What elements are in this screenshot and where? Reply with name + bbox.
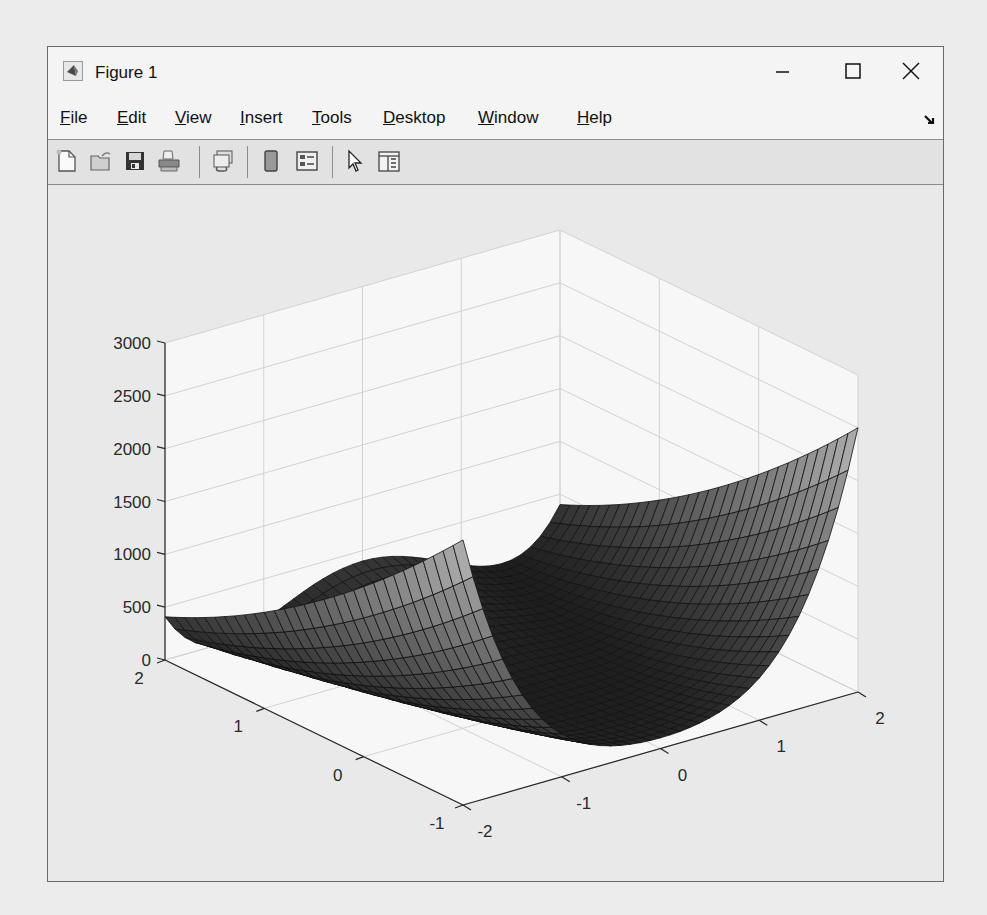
z-tick-label: 2000	[113, 440, 151, 459]
z-tick-label: 2500	[113, 387, 151, 406]
x-tick-label: -1	[576, 794, 591, 813]
y-tick-label: 0	[333, 766, 342, 785]
x-tick	[858, 692, 866, 697]
x-tick	[759, 720, 767, 725]
z-tick-label: 1000	[113, 545, 151, 564]
x-tick	[562, 777, 570, 782]
surface-plot[interactable]: 050010001500200025003000-1012-2-1012	[0, 0, 987, 915]
z-tick-label: 1500	[113, 493, 151, 512]
z-tick	[157, 552, 165, 554]
y-tick	[356, 757, 364, 760]
z-tick	[157, 658, 165, 660]
z-tick-label: 500	[123, 598, 151, 617]
z-tick	[157, 605, 165, 607]
y-tick	[256, 708, 264, 711]
x-tick	[463, 805, 471, 810]
z-tick	[157, 447, 165, 449]
x-tick-label: 1	[777, 737, 786, 756]
y-tick	[157, 660, 165, 663]
z-tick	[157, 500, 165, 502]
x-tick-label: 0	[678, 766, 687, 785]
y-tick-label: 1	[234, 717, 243, 736]
z-tick	[157, 341, 165, 343]
z-tick-label: 3000	[113, 334, 151, 353]
x-tick-label: 2	[875, 709, 884, 728]
z-tick	[157, 394, 165, 396]
x-tick	[661, 749, 669, 754]
y-tick-label: 2	[134, 669, 143, 688]
x-tick-label: -2	[477, 822, 492, 841]
y-tick	[455, 805, 463, 808]
z-tick-label: 0	[142, 651, 151, 670]
y-tick-label: -1	[429, 814, 444, 833]
